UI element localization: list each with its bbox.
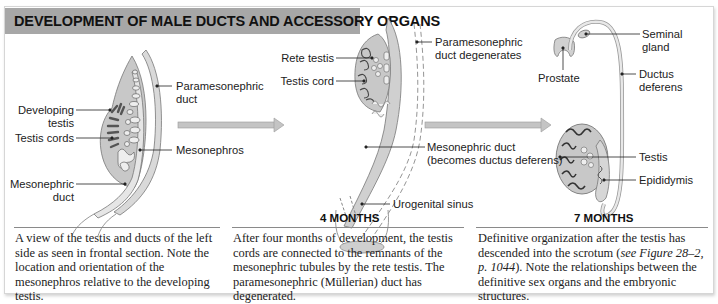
label-line: Paramesonephric	[435, 36, 523, 49]
label-testis-cords: Testis cords	[4, 132, 74, 145]
label-line: Seminal	[642, 28, 682, 41]
arrow-stage-2-to-3	[425, 118, 551, 132]
label-ductus-deferens: Ductus deferens	[639, 68, 683, 94]
caption-divider-3	[476, 227, 708, 228]
caption-divider-2	[232, 227, 464, 228]
label-line: Mesonephric duct	[427, 141, 563, 154]
label-mesonephric-duct-4mo: Mesonephric duct (becomes ductus deferen…	[427, 141, 563, 167]
caption-panel-3: Definitive organization after the testis…	[478, 231, 714, 304]
label-paramesonephric-duct-degenerates: Paramesonephric duct degenerates	[435, 36, 523, 62]
arrow-stage-1-to-2	[178, 118, 284, 132]
label-seminal-gland: Seminal gland	[642, 28, 682, 54]
label-line: testis	[8, 117, 74, 130]
label-line: Paramesonephric	[176, 80, 264, 93]
caption-panel-1: A view of the testis and ducts of the le…	[15, 231, 227, 304]
panel-3-illustration	[554, 22, 640, 216]
label-paramesonephric-duct: Paramesonephric duct	[176, 80, 264, 106]
label-mesonephros: Mesonephros	[176, 144, 244, 157]
label-urogenital-sinus: Urogenital sinus	[393, 198, 473, 211]
label-testis-cord: Testis cord	[262, 75, 334, 88]
label-line: gland	[642, 41, 682, 54]
label-line: duct degenerates	[435, 49, 523, 62]
label-line: (becomes ductus deferens)	[427, 154, 563, 167]
panel-1-illustration	[72, 50, 172, 236]
label-line: Developing	[8, 104, 74, 117]
label-mesonephric-duct: Mesonephric duct	[4, 178, 74, 204]
label-line: Mesonephric	[4, 178, 74, 191]
label-line: duct	[4, 191, 74, 204]
caption-panel-2: After four months of development, the te…	[233, 231, 471, 304]
stage-label-7-months: 7 MONTHS	[574, 212, 633, 224]
label-testis-7mo: Testis	[639, 151, 668, 164]
label-developing-testis: Developing testis	[8, 104, 74, 130]
label-line: duct	[176, 93, 264, 106]
label-prostate: Prostate	[538, 72, 580, 85]
label-epididymis: Epididymis	[639, 174, 693, 187]
label-rete-testis: Rete testis	[262, 52, 334, 65]
label-line: Ductus	[639, 68, 683, 81]
stage-label-4-months: 4 MONTHS	[320, 212, 379, 224]
caption-divider-1	[14, 227, 220, 228]
label-line: deferens	[639, 81, 683, 94]
